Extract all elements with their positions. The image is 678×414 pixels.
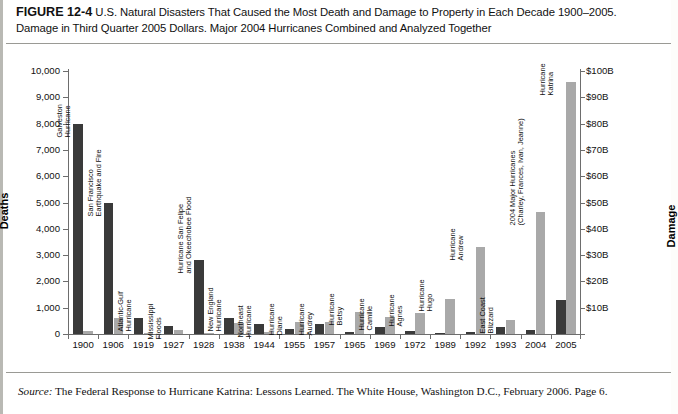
bar-damage [415, 313, 425, 334]
y-tick-label-left: 5,000 [8, 198, 60, 208]
bar-event-label-line: Agnes [396, 294, 404, 326]
bar-deaths [466, 332, 476, 334]
bar-event-label: HurricaneHugo [418, 280, 434, 312]
bar-deaths [526, 330, 536, 334]
bar-event-label-line: Hurricane [245, 305, 253, 337]
y-tick-label-right: $100B [586, 66, 646, 76]
y-tick-label-left: 2,000 [8, 276, 60, 286]
y-tick-right [580, 255, 585, 256]
bar-damage [83, 331, 93, 334]
bar-deaths [134, 318, 144, 334]
y-tick-left [63, 71, 68, 72]
plot-area: 01,0002,0003,0004,0005,0006,0007,0008,00… [68, 69, 581, 335]
y-tick-label-left: 0 [8, 329, 60, 339]
bar-deaths [224, 318, 234, 334]
y-tick-left [63, 281, 68, 282]
source-prefix: Source: [18, 385, 52, 397]
y-tick-label-left: 7,000 [8, 145, 60, 155]
y-tick-label-right: $30B [586, 250, 646, 260]
bar-deaths [345, 332, 355, 334]
y-tick-left [63, 229, 68, 230]
bar-deaths [254, 324, 264, 334]
y-tick-right [580, 203, 585, 204]
bar-event-label: Atlantic-GulfHurricane [116, 291, 132, 331]
y-axis-title-damage: Damage [666, 205, 678, 248]
bar-deaths [405, 331, 415, 334]
source-line: Source: The Federal Response to Hurrican… [18, 384, 661, 398]
bar-deaths [285, 329, 295, 334]
bar-deaths [556, 300, 566, 334]
y-tick-label-left: 10,000 [8, 66, 60, 76]
y-tick-label-right: $80B [586, 119, 646, 129]
y-tick-label-right: $60B [586, 171, 646, 181]
bar-damage [566, 82, 576, 334]
bar-damage [174, 330, 184, 334]
bar-event-label-line: Andrew [456, 229, 464, 261]
y-tick-right [580, 71, 585, 72]
y-tick-left [63, 203, 68, 204]
y-tick-label-left: 8,000 [8, 119, 60, 129]
y-tick-label-left: 6,000 [8, 171, 60, 181]
y-tick-label-right: $70B [586, 145, 646, 155]
y-tick-right [580, 176, 585, 177]
bar-event-label: HurricaneKatrina [539, 63, 555, 95]
bar-damage [204, 333, 214, 335]
y-tick-left [63, 308, 68, 309]
bar-event-label: MississippiFloods [146, 304, 162, 340]
bar-event-label: HurricaneDiane [267, 304, 283, 336]
y-tick-right [580, 124, 585, 125]
bar-event-label-line: Blizzard [487, 297, 495, 333]
y-tick-label-right: $90B [586, 92, 646, 102]
y-tick-left [63, 255, 68, 256]
y-tick-right [580, 97, 585, 98]
bar-event-label-line: Hurricane [64, 104, 72, 137]
bar-event-label-line: Hurricane [215, 288, 223, 332]
bar-event-label-line: Hugo [426, 280, 434, 312]
bar-event-label-line: Floods [155, 304, 163, 340]
bar-event-label-line: Katrina [547, 63, 555, 95]
bar-deaths [194, 260, 204, 334]
bar-event-label: GalvestonHurricane [56, 104, 72, 137]
y-tick-label-left: 3,000 [8, 250, 60, 260]
bar-event-label-line: Hurricane [124, 291, 132, 331]
y-tick-label-right: $50B [586, 198, 646, 208]
bar-deaths [435, 333, 445, 335]
bar-event-label: HurricaneCamille [358, 298, 374, 330]
bar-event-label: HurricaneAudrey [297, 304, 313, 336]
y-tick-label-left: 4,000 [8, 224, 60, 234]
y-tick-left [63, 97, 68, 98]
bar-deaths [375, 327, 385, 334]
x-tick-label-year: 2005 [546, 339, 586, 350]
figure-caption-band: FIGURE 12-4 U.S. Natural Disasters That … [6, 0, 671, 44]
y-tick-right [580, 150, 585, 151]
bar-deaths [496, 327, 506, 334]
bar-damage [445, 299, 455, 335]
y-tick-label-left: 9,000 [8, 92, 60, 102]
y-tick-right [580, 308, 585, 309]
bar-event-label-line: Camille [366, 298, 374, 330]
bar-event-label: 2004 Major Hurricanes(Charley, Frances, … [509, 118, 525, 225]
bar-event-label-line: Betsy [336, 293, 344, 325]
bar-event-label-line: Earthquake and Fire [94, 149, 102, 216]
x-tick [580, 334, 581, 339]
bar-event-label: Hurricane San Felipeand Okeechobee Flood [177, 197, 193, 274]
bar-deaths [104, 203, 114, 335]
bar-event-label: HurricaneBetsy [328, 293, 344, 325]
y-tick-label-right: $40B [586, 224, 646, 234]
chart-panel: Deaths Damage 01,0002,0003,0004,0005,000… [6, 45, 671, 372]
bar-event-label: East CoastBlizzard [478, 297, 494, 333]
bar-damage [536, 212, 546, 334]
figure-number: FIGURE 12-4 [16, 5, 92, 19]
bar-deaths [73, 124, 83, 334]
bar-event-label-line: Audrey [306, 304, 314, 336]
bar-event-label: HurricaneAgnes [388, 294, 404, 326]
figure-caption-text: U.S. Natural Disasters That Caused the M… [16, 6, 617, 34]
bar-event-label: San FranciscoEarthquake and Fire [86, 149, 102, 216]
y-tick-label-left: 1,000 [8, 303, 60, 313]
bar-event-label: New EnglandHurricane [207, 288, 223, 332]
bar-deaths [315, 324, 325, 334]
source-band: Source: The Federal Response to Hurrican… [6, 372, 671, 414]
bar-event-label: NortheastHurricane [237, 305, 253, 337]
y-tick-right [580, 229, 585, 230]
bar-event-label-line: and Okeechobee Flood [185, 197, 193, 274]
